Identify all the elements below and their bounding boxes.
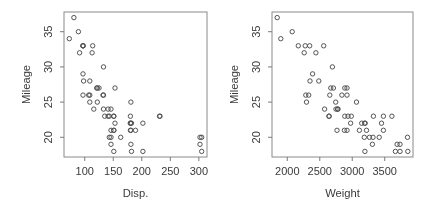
data-point xyxy=(303,44,307,48)
x-tick-label: 100 xyxy=(76,165,94,177)
data-point xyxy=(296,44,300,48)
data-point xyxy=(371,114,375,118)
x-tick-label: 250 xyxy=(161,165,179,177)
x-axis-label: Weight xyxy=(325,187,361,199)
data-point xyxy=(91,44,95,48)
data-point xyxy=(381,128,385,132)
data-point xyxy=(314,51,318,55)
data-point xyxy=(72,15,76,19)
data-point xyxy=(112,114,116,118)
data-point xyxy=(90,51,94,55)
y-tick-label: 30 xyxy=(42,61,54,73)
data-point xyxy=(67,37,71,41)
data-point xyxy=(328,93,332,97)
y-axis-label: Mileage xyxy=(20,65,32,104)
x-tick-label: 2500 xyxy=(308,165,332,177)
x-axis-label: Disp. xyxy=(123,187,149,199)
data-point xyxy=(379,121,383,125)
data-point xyxy=(101,107,105,111)
data-point xyxy=(330,65,334,69)
data-point xyxy=(357,128,361,132)
data-point xyxy=(354,100,358,104)
data-point xyxy=(322,44,326,48)
plot-box xyxy=(64,12,207,157)
data-point xyxy=(77,51,81,55)
data-point xyxy=(275,15,279,19)
y-tick-label: 30 xyxy=(250,61,262,73)
data-point xyxy=(200,149,204,153)
data-point xyxy=(322,107,326,111)
x-tick-label: 3500 xyxy=(372,165,396,177)
data-point xyxy=(290,30,294,34)
y-tick-label: 20 xyxy=(250,131,262,143)
y-tick-label: 25 xyxy=(42,96,54,108)
data-point xyxy=(406,149,410,153)
data-point xyxy=(381,114,385,118)
data-point xyxy=(335,128,339,132)
data-point xyxy=(393,149,397,153)
data-point xyxy=(348,121,352,125)
data-point xyxy=(363,149,367,153)
data-point xyxy=(133,128,137,132)
data-point xyxy=(141,121,145,125)
data-point xyxy=(198,142,202,146)
x-tick-label: 200 xyxy=(133,165,151,177)
data-point xyxy=(405,135,409,139)
x-tick-label: 3000 xyxy=(340,165,364,177)
data-point xyxy=(390,114,394,118)
y-axis-label: Mileage xyxy=(228,65,240,104)
data-point xyxy=(92,107,96,111)
data-point xyxy=(364,128,368,132)
data-point xyxy=(308,44,312,48)
scatter-plots: 10015020025030020253035Disp.Mileage20002… xyxy=(0,0,437,213)
data-point xyxy=(362,135,366,139)
x-tick-label: 150 xyxy=(104,165,122,177)
x-tick-label: 2000 xyxy=(275,165,299,177)
data-point xyxy=(119,135,123,139)
data-point xyxy=(370,142,374,146)
data-point xyxy=(141,149,145,153)
data-point xyxy=(304,100,308,104)
data-point xyxy=(395,142,399,146)
data-point xyxy=(377,135,381,139)
y-tick-label: 25 xyxy=(250,96,262,108)
data-point xyxy=(81,93,85,97)
data-point xyxy=(76,30,80,34)
data-point xyxy=(109,142,113,146)
data-point xyxy=(343,114,347,118)
data-point xyxy=(106,107,110,111)
data-point xyxy=(307,93,311,97)
data-point xyxy=(129,100,133,104)
data-point xyxy=(81,72,85,76)
data-point xyxy=(345,93,349,97)
scatter-plot-disp: 10015020025030020253035Disp.Mileage xyxy=(20,12,208,199)
y-tick-label: 35 xyxy=(250,26,262,38)
data-point xyxy=(112,149,116,153)
data-point xyxy=(308,79,312,83)
data-point xyxy=(95,100,99,104)
data-point xyxy=(101,65,105,69)
y-tick-label: 20 xyxy=(42,131,54,143)
data-point xyxy=(317,79,321,83)
data-point xyxy=(334,100,338,104)
data-point xyxy=(113,86,117,90)
data-point xyxy=(129,149,133,153)
data-point xyxy=(88,100,92,104)
data-point xyxy=(129,142,133,146)
scatter-plot-weight: 200025003000350020253035WeightMileage xyxy=(228,12,413,199)
x-tick-label: 300 xyxy=(190,165,208,177)
data-point xyxy=(88,79,92,83)
data-point xyxy=(112,128,116,132)
y-tick-label: 35 xyxy=(42,26,54,38)
data-point xyxy=(279,37,283,41)
data-point xyxy=(81,79,85,83)
data-point xyxy=(81,44,85,48)
data-point xyxy=(113,121,117,125)
data-point xyxy=(302,51,306,55)
data-point xyxy=(398,149,402,153)
data-point xyxy=(340,93,344,97)
data-point xyxy=(310,72,314,76)
data-point xyxy=(128,114,132,118)
figure-canvas: 10015020025030020253035Disp.Mileage20002… xyxy=(0,0,437,213)
